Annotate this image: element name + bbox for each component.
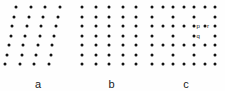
lattice-point xyxy=(15,6,18,9)
lattice-point xyxy=(25,25,28,28)
panel-a-lattice xyxy=(0,0,76,72)
lattice-point xyxy=(135,53,138,56)
panel-b: b xyxy=(76,0,147,91)
lattice-point xyxy=(108,6,111,9)
lattice-point xyxy=(35,53,38,56)
lattice-point xyxy=(161,25,164,28)
lattice-point xyxy=(121,53,124,56)
lattice-point xyxy=(214,25,217,28)
lattice-point xyxy=(81,53,84,56)
lattice-point xyxy=(121,44,124,47)
lattice-point xyxy=(151,15,154,18)
lattice-point xyxy=(94,63,97,66)
lattice-point xyxy=(214,15,217,18)
lattice-point xyxy=(214,6,217,9)
panel-a: a xyxy=(0,0,76,91)
lattice-point xyxy=(94,44,97,47)
lattice-point xyxy=(121,25,124,28)
lattice-point xyxy=(214,53,217,56)
lattice-point xyxy=(38,34,41,37)
lattice-point xyxy=(135,34,138,37)
lattice-point xyxy=(20,53,23,56)
lattice-point xyxy=(214,63,217,66)
lattice-point xyxy=(18,63,21,66)
panel-b-label: b xyxy=(76,78,147,90)
lattice-point xyxy=(161,6,164,9)
lattice-point xyxy=(29,6,32,9)
lattice-point xyxy=(54,25,57,28)
lattice-point xyxy=(94,25,97,28)
lattice-point xyxy=(94,53,97,56)
lattice-point xyxy=(151,25,154,28)
lattice-point xyxy=(94,6,97,9)
lattice-point xyxy=(203,25,206,28)
panel-c-lattice: prq xyxy=(147,0,225,72)
lattice-point xyxy=(47,63,50,66)
lattice-point xyxy=(193,63,196,66)
panel-c-label: c xyxy=(147,78,225,90)
lattice-point xyxy=(203,6,206,9)
lattice-point xyxy=(182,6,185,9)
lattice-point xyxy=(13,15,16,18)
lattice-point xyxy=(81,6,84,9)
lattice-point xyxy=(27,15,30,18)
lattice-point xyxy=(135,25,138,28)
lattice-point xyxy=(108,44,111,47)
lattice-point xyxy=(172,63,175,66)
lattice-point xyxy=(135,63,138,66)
panel-a-label: a xyxy=(0,78,76,90)
lattice-point xyxy=(214,44,217,47)
lattice-point xyxy=(151,34,154,37)
lattice-point xyxy=(182,44,185,47)
lattice-point xyxy=(161,63,164,66)
lattice-point xyxy=(193,44,196,47)
point-label-p: p xyxy=(197,23,200,29)
lattice-point xyxy=(44,6,47,9)
lattice-point xyxy=(108,25,111,28)
lattice-point xyxy=(172,6,175,9)
lattice-point xyxy=(121,15,124,18)
lattice-point xyxy=(193,34,196,37)
lattice-point xyxy=(108,34,111,37)
lattice-point xyxy=(151,44,154,47)
lattice-point xyxy=(172,25,175,28)
lattice-point xyxy=(108,15,111,18)
lattice-point xyxy=(172,53,175,56)
lattice-point xyxy=(81,15,84,18)
lattice-point xyxy=(58,6,61,9)
lattice-point xyxy=(53,34,56,37)
lattice-point xyxy=(49,53,52,56)
lattice-point xyxy=(135,44,138,47)
lattice-point xyxy=(121,34,124,37)
lattice-point xyxy=(172,34,175,37)
lattice-point xyxy=(172,15,175,18)
lattice-point xyxy=(172,44,175,47)
lattice-point xyxy=(56,15,59,18)
lattice-point xyxy=(108,53,111,56)
lattice-point xyxy=(203,44,206,47)
lattice-point xyxy=(151,63,154,66)
lattice-point xyxy=(193,15,196,18)
lattice-point xyxy=(36,44,39,47)
lattice-point xyxy=(7,44,10,47)
point-label-r: r xyxy=(207,23,209,29)
lattice-point xyxy=(193,6,196,9)
lattice-point xyxy=(121,63,124,66)
lattice-point xyxy=(193,53,196,56)
lattice-point xyxy=(11,25,14,28)
panel-b-lattice xyxy=(76,0,147,72)
lattice-point xyxy=(9,34,12,37)
lattice-point xyxy=(22,44,25,47)
lattice-point xyxy=(182,25,185,28)
lattice-point xyxy=(42,15,45,18)
lattice-point xyxy=(203,63,206,66)
lattice-point xyxy=(94,34,97,37)
point-label-q: q xyxy=(197,33,200,39)
lattice-point xyxy=(151,6,154,9)
lattice-point xyxy=(182,63,185,66)
panel-c: prq c xyxy=(147,0,225,91)
lattice-point xyxy=(81,34,84,37)
lattice-point xyxy=(121,6,124,9)
lattice-point xyxy=(51,44,54,47)
lattice-point xyxy=(24,34,27,37)
